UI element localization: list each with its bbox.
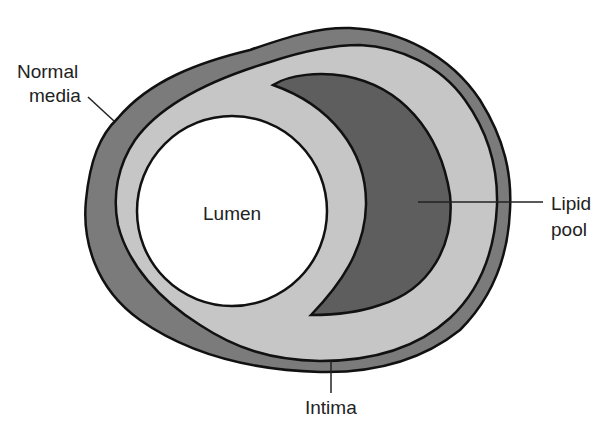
normal-media-label-line2: media <box>29 85 81 106</box>
lipid-pool-label-line1: Lipid <box>551 193 591 214</box>
lumen-label: Lumen <box>203 203 261 224</box>
artery-diagram: Normal media Lumen Lipid pool Intima <box>0 0 612 435</box>
normal-media-label-line1: Normal <box>17 61 78 82</box>
lipid-pool-label-line2: pool <box>551 219 587 240</box>
normal-media-leader-line <box>88 97 114 121</box>
intima-label: Intima <box>305 397 357 418</box>
